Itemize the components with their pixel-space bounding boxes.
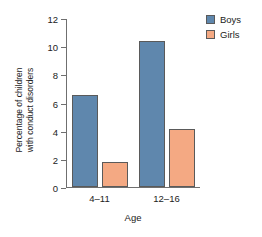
- bar-girls[interactable]: [102, 162, 128, 187]
- y-tick-label: 8: [53, 70, 58, 81]
- y-tick-mark: [61, 188, 66, 189]
- x-tick-label: 4–11: [66, 193, 133, 204]
- legend-item-boys[interactable]: Boys: [206, 14, 241, 25]
- bar-boys[interactable]: [139, 41, 165, 187]
- bar-girls[interactable]: [169, 129, 195, 187]
- y-tick-label: 12: [47, 14, 58, 25]
- x-tick-label: 12–16: [133, 193, 200, 204]
- legend-label-girls: Girls: [220, 29, 240, 40]
- y-tick-label: 2: [53, 154, 58, 165]
- y-tick-label: 10: [47, 42, 58, 53]
- y-axis-label-line1: Percentage of children: [14, 67, 25, 152]
- bar-group: 12–16: [133, 19, 200, 187]
- plot-area: 12 10 8 6 4 2 0 4–11: [66, 19, 200, 188]
- legend-label-boys: Boys: [220, 14, 241, 25]
- legend-item-girls[interactable]: Girls: [206, 29, 241, 40]
- y-axis-label: Percentage of children with conduct diso…: [8, 30, 42, 190]
- legend-swatch-girls-icon: [206, 30, 215, 39]
- y-axis-label-line2: with conduct disorders: [25, 67, 36, 152]
- y-tick-label: 0: [53, 183, 58, 194]
- y-tick-label: 6: [53, 98, 58, 109]
- bar-group: 4–11: [66, 19, 133, 187]
- legend-swatch-boys-icon: [206, 15, 215, 24]
- x-axis-label: Age: [66, 212, 200, 223]
- legend: Boys Girls: [206, 14, 241, 44]
- bar-chart-figure: Percentage of children with conduct diso…: [0, 0, 262, 237]
- bar-boys[interactable]: [72, 95, 98, 187]
- y-tick-label: 4: [53, 126, 58, 137]
- x-axis-line: [66, 187, 200, 188]
